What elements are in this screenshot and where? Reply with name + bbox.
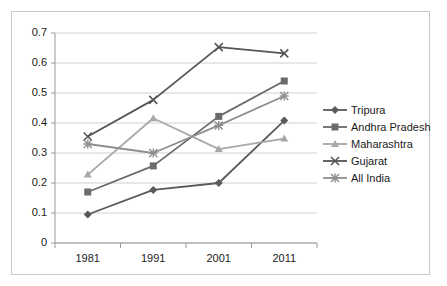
data-point-marker-cross <box>84 133 92 141</box>
y-axis-tick-label: 0.2 <box>17 177 47 188</box>
y-axis-tick-label: 0.4 <box>17 117 47 128</box>
data-point-marker-square <box>84 189 91 196</box>
series-line <box>88 118 285 174</box>
data-point-marker-triangle <box>280 135 288 142</box>
data-point-marker-star <box>214 121 223 130</box>
series-andhra-pradesh <box>84 78 288 196</box>
y-axis-tick-label: 0.3 <box>17 147 47 158</box>
legend-item-andhra-pradesh[interactable]: Andhra Pradesh <box>322 119 426 135</box>
axis-lines <box>51 33 317 243</box>
data-point-marker-star <box>149 149 158 158</box>
y-axis-tick-label: 0.6 <box>17 57 47 68</box>
x-axis-tick-label: 1981 <box>63 253 113 264</box>
x-axis-tick-label: 2011 <box>259 253 309 264</box>
legend-label: Tripura <box>348 105 385 116</box>
data-series-group <box>83 43 289 218</box>
series-all-india <box>83 92 289 158</box>
legend-label: Maharashtra <box>348 139 413 150</box>
x-axis-tick-label: 1991 <box>128 253 178 264</box>
legend-marker-diamond-icon <box>322 103 348 117</box>
data-point-marker-star <box>331 174 340 183</box>
legend-item-tripura[interactable]: Tripura <box>322 102 426 118</box>
chart-container: 00.10.20.30.40.50.60.7 1981199120012011 … <box>0 0 447 286</box>
data-point-marker-square <box>332 124 339 131</box>
data-point-marker-cross <box>149 96 157 104</box>
data-point-marker-diamond <box>331 106 339 114</box>
series-line <box>88 121 285 215</box>
y-axis-tick-label: 0 <box>17 237 47 248</box>
legend-marker-triangle-icon <box>322 137 348 151</box>
data-point-marker-square <box>150 162 157 169</box>
x-axis-tick-label: 2001 <box>194 253 244 264</box>
legend-label: Andhra Pradesh <box>348 122 431 133</box>
legend-item-gujarat[interactable]: Gujarat <box>322 153 426 169</box>
legend-label: All India <box>348 173 390 184</box>
series-line <box>88 81 285 192</box>
data-point-marker-square <box>281 78 288 85</box>
data-point-marker-diamond <box>149 186 157 194</box>
y-axis-tick-label: 0.1 <box>17 207 47 218</box>
chart-legend: Tripura Andhra Pradesh Maharashtra Gujar… <box>322 102 426 187</box>
y-axis-tick-label: 0.7 <box>17 27 47 38</box>
series-line <box>88 96 285 153</box>
legend-marker-square-icon <box>322 120 348 134</box>
legend-item-all-india[interactable]: All India <box>322 170 426 186</box>
legend-marker-cross-icon <box>322 154 348 168</box>
y-axis-tick-label: 0.5 <box>17 87 47 98</box>
data-point-marker-star <box>280 92 289 101</box>
data-point-marker-diamond <box>84 211 92 219</box>
data-point-marker-star <box>83 140 92 149</box>
data-point-marker-triangle <box>149 114 157 121</box>
legend-item-maharashtra[interactable]: Maharashtra <box>322 136 426 152</box>
x-tick-marks <box>55 243 317 248</box>
legend-label: Gujarat <box>348 156 387 167</box>
series-tripura <box>84 117 289 219</box>
series-gujarat <box>84 43 289 140</box>
data-point-marker-square <box>215 113 222 120</box>
legend-marker-star-icon <box>322 171 348 185</box>
